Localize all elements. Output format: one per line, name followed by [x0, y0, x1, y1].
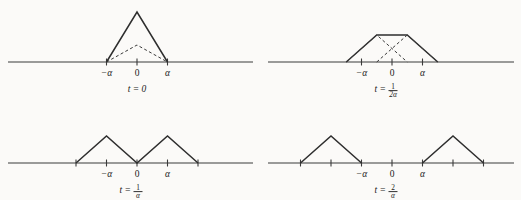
axis-tick-label: 0	[135, 68, 140, 78]
plot-curve	[346, 35, 407, 62]
plot-panel: −α0αt =12α	[268, 35, 514, 99]
axis-tick-label: −α	[101, 169, 113, 179]
caption-text: t =	[120, 185, 131, 195]
caption-fraction-denominator: α	[136, 191, 140, 200]
axis-tick-label: −α	[101, 68, 113, 78]
caption-text: t =	[375, 84, 386, 94]
panel-caption: t = 0	[128, 84, 147, 94]
axis-tick-label: α	[165, 68, 171, 78]
caption-text: t = 0	[128, 84, 147, 94]
axis-tick-label: 0	[390, 169, 395, 179]
axis-tick-label: α	[420, 169, 426, 179]
panel-caption: t =12α	[375, 82, 398, 99]
plot-curve	[377, 35, 438, 62]
plot-curve	[423, 136, 484, 163]
panel-caption: t =2α	[375, 183, 398, 200]
axis-tick-label: −α	[356, 169, 368, 179]
plot-panel: −α0αt = 0	[8, 12, 253, 94]
plot-curve	[107, 12, 168, 62]
axis-tick-label: α	[420, 68, 426, 78]
caption-fraction-denominator: 2α	[389, 90, 397, 99]
plot-curve	[76, 136, 198, 163]
caption-fraction-denominator: α	[391, 191, 395, 200]
axis-tick-label: α	[165, 169, 171, 179]
axis-tick-label: −α	[356, 68, 368, 78]
figure-canvas: −α0αt = 0−α0αt =12α−α0αt =1α−α0αt =2α	[0, 0, 521, 200]
plot-panel: −α0αt =1α	[8, 136, 253, 200]
panel-caption: t =1α	[120, 183, 143, 200]
plot-panel: −α0αt =2α	[268, 136, 514, 200]
axis-tick-label: 0	[135, 169, 140, 179]
plot-curve	[301, 136, 362, 163]
caption-text: t =	[375, 185, 386, 195]
axis-tick-label: 0	[390, 68, 395, 78]
